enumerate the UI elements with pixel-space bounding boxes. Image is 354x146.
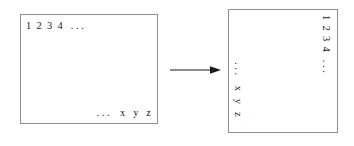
left-bottom-row-label: . . . x y z (96, 108, 151, 119)
left-top-row-label: 1 2 3 4 . . . (26, 21, 84, 32)
right-column-index-label: 1 2 3 4 . . . (321, 15, 332, 73)
diagram-canvas: 1 2 3 4 . . . . . . x y z 1 2 3 4 . . . … (0, 0, 354, 146)
transform-arrow (170, 62, 222, 74)
left-column-index-label: . . . x y z (233, 62, 244, 117)
column-major-matrix: 1 2 3 4 . . . . . . x y z (228, 9, 338, 133)
row-major-matrix: 1 2 3 4 . . . . . . x y z (20, 14, 158, 124)
arrow-right-icon (170, 64, 222, 76)
